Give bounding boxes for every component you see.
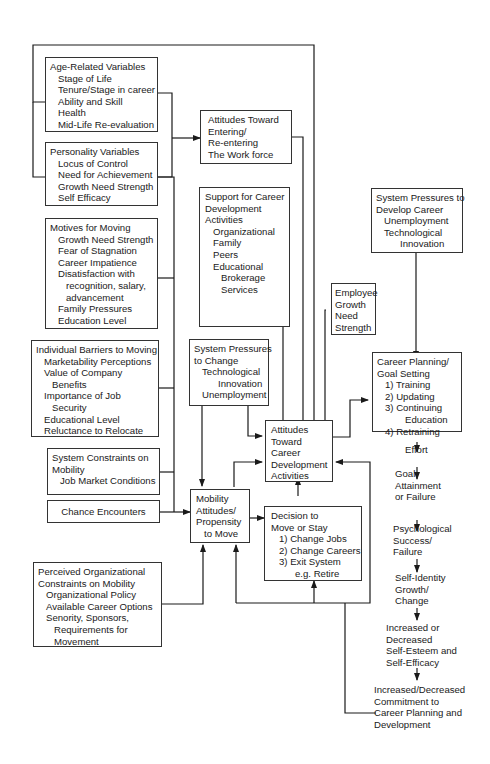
list-item: Ability and Skill <box>50 96 153 108</box>
box-title: System Pressures to <box>376 192 458 204</box>
decision-box: Decision to Move or Stay 1) Change Jobs … <box>264 506 362 581</box>
career-planning-box: Career Planning/ Goal Setting 1) Trainin… <box>372 352 462 432</box>
box-title-line2: Constraints on Mobility <box>38 578 157 590</box>
box-line: Development <box>271 459 328 471</box>
box-title: Decision to <box>271 510 357 522</box>
list-item: 2) Updating <box>377 391 457 403</box>
personality-variables-box: Personality Variables Locus of Control N… <box>45 142 158 206</box>
box-line: Growth <box>335 299 372 311</box>
list-item: 3) Exit System <box>271 556 357 568</box>
outcome-line: Decreased <box>386 634 457 646</box>
box-line: Attitudes Toward <box>208 114 287 126</box>
outcome-effort: Effort <box>405 444 428 456</box>
box-title: Goal Setting <box>377 368 457 380</box>
outcome-line: Growth/ <box>395 584 446 596</box>
list-item: Technological <box>194 366 264 378</box>
box-title: System Pressures <box>194 343 264 355</box>
outcome-line: Self-Esteem and <box>386 645 457 657</box>
box-line: Entering/ <box>208 126 287 138</box>
list-item: Technological <box>376 227 458 239</box>
list-item: Growth Need Strength <box>50 181 153 193</box>
list-item: Unemployment <box>376 215 458 227</box>
list-item: Education <box>377 414 457 426</box>
box-line: to Move <box>196 528 245 540</box>
list-item: Unemployment <box>194 389 264 401</box>
list-item: Movement <box>38 636 157 648</box>
outcome-line: Career Planning and <box>374 707 465 719</box>
box-line: The Work force <box>208 149 287 161</box>
outcome-goal-attainment: Goal Attainment or Failure <box>395 468 441 503</box>
list-item: 1) Training <box>377 379 457 391</box>
list-item: Fear of Stagnation <box>50 245 153 257</box>
box-line: Propensity <box>196 516 245 528</box>
box-line: Activities <box>271 470 328 482</box>
chance-encounters-box: Chance Encounters <box>47 500 160 523</box>
box-line: Attitudes <box>271 424 328 436</box>
outcome-line: Failure <box>393 546 452 558</box>
box-line: Strength <box>335 322 372 334</box>
box-title: Motives for Moving <box>50 222 153 234</box>
list-item: Need for Achievement <box>50 169 153 181</box>
system-pressures-change-box: System Pressures to Change Technological… <box>189 339 269 406</box>
list-item: e.g. Retire <box>271 568 357 580</box>
outcome-self-esteem: Increased or Decreased Self-Esteem and S… <box>386 622 457 668</box>
box-title-line2: Mobility <box>52 464 155 476</box>
list-item: 2) Change Careers <box>271 545 357 557</box>
list-item: recognition, salary, <box>50 280 153 292</box>
box-title: Development <box>205 203 285 215</box>
list-item: Innovation <box>376 238 458 250</box>
list-item: Reluctance to Relocate <box>36 425 154 437</box>
list-item: Growth Need Strength <box>50 234 153 246</box>
outcome-line: Development <box>374 719 465 731</box>
box-title: Chance Encounters <box>52 504 155 519</box>
box-title: Perceived Organizational <box>38 566 157 578</box>
list-item: Importance of Job <box>36 390 154 402</box>
outcome-line: or Failure <box>395 491 441 503</box>
list-item: Available Career Options <box>38 601 157 613</box>
attitudes-workforce-box: Attitudes Toward Entering/ Re-entering T… <box>200 110 292 164</box>
outcome-self-identity: Self-Identity Growth/ Change <box>395 572 446 607</box>
box-title: Support for Career <box>205 191 285 203</box>
list-item: Education Level <box>50 315 153 327</box>
list-item: Locus of Control <box>50 158 153 170</box>
list-item: Job Market Conditions <box>52 475 155 487</box>
box-title: Career Planning/ <box>377 356 457 368</box>
list-item: Disatisfaction with <box>50 268 153 280</box>
list-item: Self Efficacy <box>50 192 153 204</box>
box-title: System Constraints on <box>52 452 155 464</box>
list-item: Mid-Life Re-evaluation <box>50 119 153 131</box>
individual-barriers-box: Individual Barriers to Moving Marketabil… <box>31 340 159 437</box>
box-title: Activities <box>205 214 285 226</box>
list-item: Organizational Policy <box>38 589 157 601</box>
list-item: Stage of Life <box>50 73 153 85</box>
list-item: Peers <box>205 249 285 261</box>
system-pressures-develop-box: System Pressures to Develop Career Unemp… <box>371 188 463 253</box>
list-item: Value of Company <box>36 367 154 379</box>
mobility-attitudes-box: Mobility Attitudes/ Propensity to Move <box>190 489 250 543</box>
box-line: Mobility <box>196 493 245 505</box>
box-title: Personality Variables <box>50 146 153 158</box>
outcome-line: Self-Identity <box>395 572 446 584</box>
box-line: Toward <box>271 436 328 448</box>
list-item: Security <box>36 402 154 414</box>
list-item: Innovation <box>194 378 264 390</box>
box-title: Develop Career <box>376 204 458 216</box>
list-item: Senority, Sponsors, <box>38 612 157 624</box>
list-item: Educational <box>205 261 285 273</box>
outcome-line: Self-Efficacy <box>386 657 457 669</box>
list-item: 3) Continuing <box>377 402 457 414</box>
box-title: to Change <box>194 355 264 367</box>
box-line: Need <box>335 310 372 322</box>
list-item: Career Impatience <box>50 257 153 269</box>
list-item: Family <box>205 237 285 249</box>
list-item: Benefits <box>36 379 154 391</box>
outcome-line: Increased/Decreased <box>374 684 465 696</box>
outcome-line: Commitment to <box>374 696 465 708</box>
outcome-line: Success/ <box>393 535 452 547</box>
outcome-line: Psychological <box>393 523 452 535</box>
perceived-org-constraints-box: Perceived Organizational Constraints on … <box>33 562 162 647</box>
list-item: Organizational <box>205 226 285 238</box>
box-title: Age-Related Variables <box>50 61 153 73</box>
box-line: Re-entering <box>208 137 287 149</box>
system-constraints-box: System Constraints on Mobility Job Marke… <box>47 448 160 495</box>
